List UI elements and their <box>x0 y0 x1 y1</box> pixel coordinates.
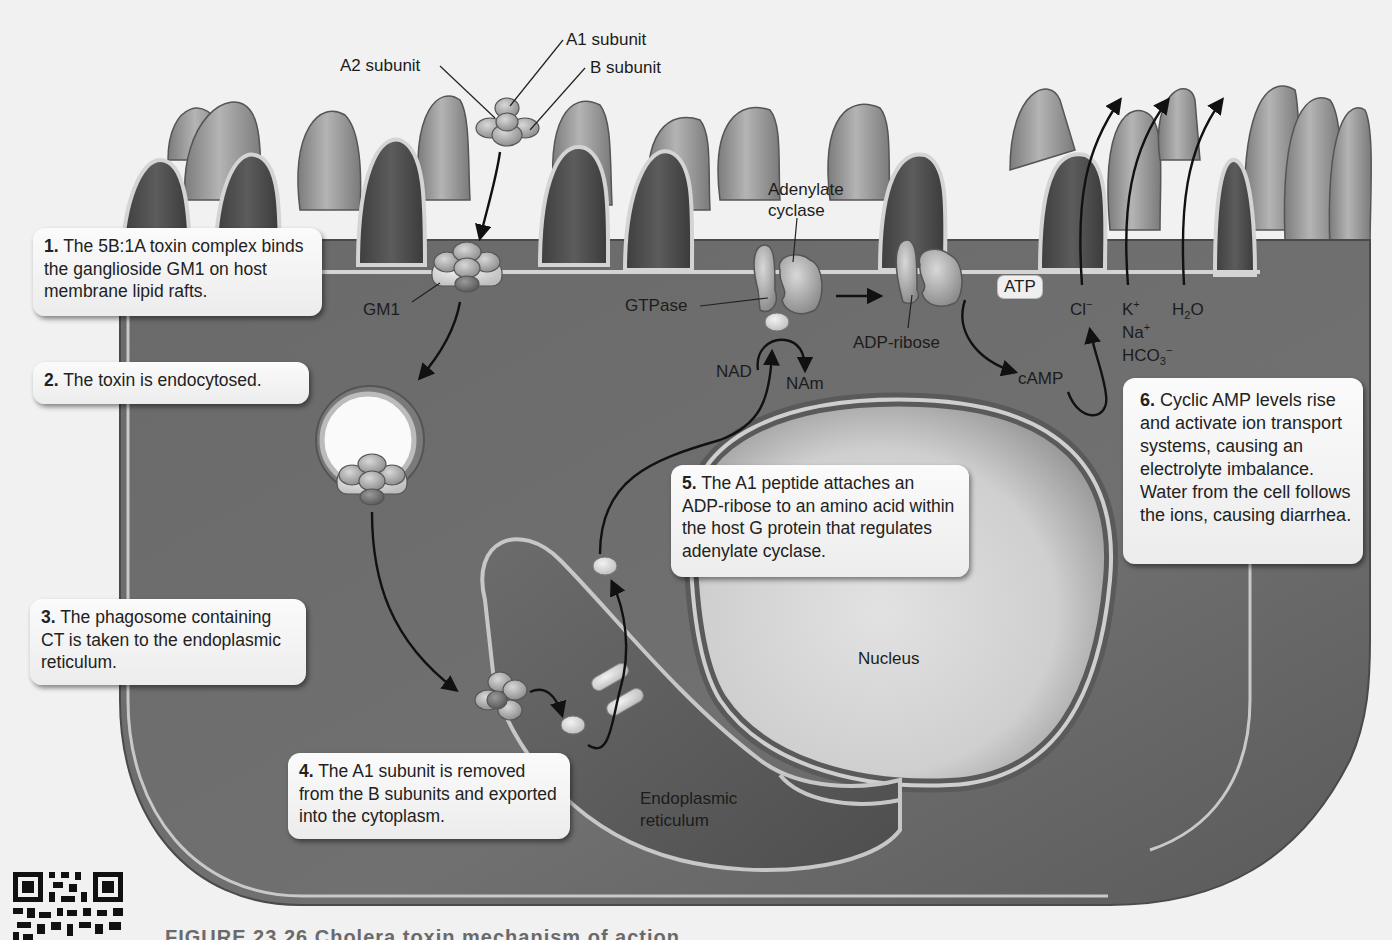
step-5-callout: 5. The A1 peptide attaches an ADP-ribose… <box>671 465 969 577</box>
label-gtpase: GTPase <box>625 296 687 316</box>
label-adenylate-cyclase-line2: cyclase <box>768 200 844 221</box>
k-charge: + <box>1133 298 1139 310</box>
step-3-number: 3. <box>41 607 56 627</box>
step-3-text: The phagosome containing CT is taken to … <box>41 607 281 672</box>
nucleus <box>690 400 1111 786</box>
label-er-line2: reticulum <box>640 810 737 832</box>
step-6-callout: 6. Cyclic AMP levels rise and activate i… <box>1123 378 1363 564</box>
hco3-symbol: HCO <box>1122 346 1160 365</box>
label-chloride-ion: Cl− <box>1070 300 1093 320</box>
label-nad: NAD <box>716 362 752 382</box>
step-1-number: 1. <box>44 236 59 256</box>
toxin-complex-outside <box>476 98 539 146</box>
k-symbol: K <box>1122 300 1133 319</box>
step-2-number: 2. <box>44 370 59 390</box>
label-a2-subunit: A2 subunit <box>340 56 420 76</box>
step-4-text: The A1 subunit is removed from the B sub… <box>299 761 557 826</box>
step-6-number: 6. <box>1140 390 1155 410</box>
label-nam: NAm <box>786 374 824 394</box>
step-6-text: Cyclic AMP levels rise and activate ion … <box>1140 390 1351 525</box>
qr-code[interactable] <box>9 868 127 940</box>
h2o-o: O <box>1190 300 1203 319</box>
hco3-sub: 3 <box>1160 355 1166 367</box>
label-adenylate-cyclase: Adenylate cyclase <box>768 179 844 221</box>
label-b-subunit: B subunit <box>590 58 661 78</box>
hco3-charge: − <box>1166 344 1172 356</box>
label-adenylate-cyclase-line1: Adenylate <box>768 179 844 200</box>
step-2-text: The toxin is endocytosed. <box>63 370 261 390</box>
step-1-text: The 5B:1A toxin complex binds the gangli… <box>44 236 303 301</box>
step-3-callout: 3. The phagosome containing CT is taken … <box>30 599 306 685</box>
cl-charge: − <box>1086 298 1092 310</box>
h2o-h: H <box>1172 300 1184 319</box>
label-bicarbonate-ion: HCO3− <box>1122 346 1172 366</box>
cl-symbol: Cl <box>1070 300 1086 319</box>
label-atp: ATP <box>998 276 1042 298</box>
label-water: H2O <box>1172 300 1204 320</box>
label-potassium-ion: K+ <box>1122 300 1140 320</box>
label-er-line1: Endoplasmic <box>640 788 737 810</box>
label-endoplasmic-reticulum: Endoplasmic reticulum <box>640 788 737 832</box>
label-a1-subunit: A1 subunit <box>566 30 646 50</box>
label-camp: cAMP <box>1018 369 1063 389</box>
na-charge: + <box>1144 321 1150 333</box>
label-nucleus: Nucleus <box>858 649 919 669</box>
label-sodium-ion: Na+ <box>1122 323 1150 343</box>
step-5-number: 5. <box>682 473 697 493</box>
figure-caption: FIGURE 23.26 Cholera toxin mechanism of … <box>165 926 687 940</box>
step-4-number: 4. <box>299 761 314 781</box>
step-5-text: The A1 peptide attaches an ADP-ribose to… <box>682 473 954 561</box>
label-adp-ribose: ADP-ribose <box>853 333 940 353</box>
label-gm1: GM1 <box>363 300 400 320</box>
step-2-callout: 2. The toxin is endocytosed. <box>33 362 309 404</box>
na-symbol: Na <box>1122 323 1144 342</box>
step-1-callout: 1. The 5B:1A toxin complex binds the gan… <box>33 228 322 316</box>
step-4-callout: 4. The A1 subunit is removed from the B … <box>288 753 570 839</box>
